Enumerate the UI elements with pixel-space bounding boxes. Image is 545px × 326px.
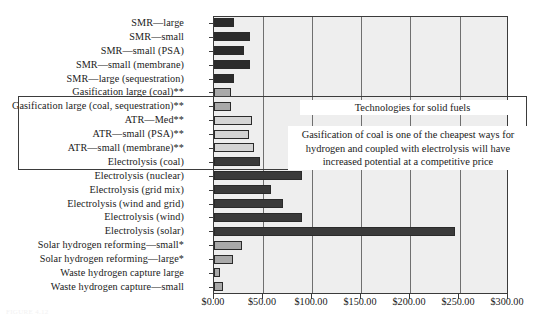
bar-container <box>214 72 234 86</box>
bar[interactable] <box>214 60 250 69</box>
bar[interactable] <box>214 282 223 291</box>
category-label: Electrolysis (coal) <box>0 156 188 168</box>
y-axis-tick <box>209 37 213 38</box>
y-axis-tick <box>209 217 213 218</box>
y-axis-tick <box>209 120 213 121</box>
y-axis-tick <box>209 23 213 24</box>
category-label: Electrolysis (wind and grid) <box>0 198 188 210</box>
bar-container <box>214 183 271 197</box>
bar[interactable] <box>214 157 260 166</box>
bar[interactable] <box>214 185 271 194</box>
x-axis-tick <box>213 294 214 299</box>
category-label: Waste hydrogen capture—small <box>0 281 188 293</box>
bar-container <box>214 16 234 30</box>
figure-container: SMR—largeSMR—smallSMR—small (PSA)SMR—sma… <box>0 0 545 326</box>
bar[interactable] <box>214 241 242 250</box>
category-label: SMR—large <box>0 17 188 29</box>
bar[interactable] <box>214 116 252 125</box>
bar[interactable] <box>214 88 231 97</box>
category-label: Waste hydrogen capture large <box>0 267 188 279</box>
chart-row: Electrolysis (solar) <box>0 224 545 238</box>
bar[interactable] <box>214 268 220 277</box>
chart-row: Electrolysis (nuclear) <box>0 169 545 183</box>
category-label: Electrolysis (nuclear) <box>0 170 188 182</box>
y-axis-tick <box>209 176 213 177</box>
bar[interactable] <box>214 130 249 139</box>
bar-container <box>214 58 250 72</box>
bar[interactable] <box>214 18 234 27</box>
y-axis-tick <box>209 273 213 274</box>
x-axis-tick <box>262 294 263 299</box>
category-label: ATR—small (membrane)** <box>0 142 188 154</box>
y-axis-tick <box>209 204 213 205</box>
bar[interactable] <box>214 171 302 180</box>
bar-container <box>214 266 220 280</box>
category-label: SMR—small <box>0 31 188 43</box>
category-label: SMR—large (sequestration) <box>0 73 188 85</box>
bar-container <box>214 280 223 294</box>
y-axis-tick <box>209 259 213 260</box>
y-axis-tick <box>209 79 213 80</box>
category-label: Electrolysis (solar) <box>0 225 188 237</box>
bar[interactable] <box>214 213 302 222</box>
bar-container <box>214 44 244 58</box>
y-axis-tick <box>209 148 213 149</box>
y-axis-tick <box>209 245 213 246</box>
category-label: SMR—small (PSA) <box>0 45 188 57</box>
y-axis-tick <box>209 231 213 232</box>
bar[interactable] <box>214 74 234 83</box>
bar-container <box>214 85 231 99</box>
bar[interactable] <box>214 227 455 236</box>
category-label: Gasification large (coal, sequestration)… <box>0 100 188 112</box>
y-axis-tick <box>209 190 213 191</box>
category-label: Solar hydrogen reforming—large* <box>0 253 188 265</box>
x-axis-tick <box>409 294 410 299</box>
y-axis-tick <box>209 51 213 52</box>
gasification-note: Gasification of coal is one of the cheap… <box>288 126 528 170</box>
category-label: SMR—small (membrane) <box>0 59 188 71</box>
x-axis-tick <box>507 294 508 299</box>
bar[interactable] <box>214 199 283 208</box>
chart-row: SMR—large <box>0 16 545 30</box>
bar[interactable] <box>214 143 254 152</box>
chart-row: Waste hydrogen capture large <box>0 266 545 280</box>
y-axis-tick <box>209 106 213 107</box>
y-axis-tick <box>209 287 213 288</box>
bar-container <box>214 155 260 169</box>
bar-container <box>214 238 242 252</box>
bar-container <box>214 252 233 266</box>
category-label: ATR—small (PSA)** <box>0 128 188 140</box>
chart-row: Solar hydrogen reforming—small* <box>0 238 545 252</box>
category-label: Electrolysis (grid mix) <box>0 184 188 196</box>
chart-row: Electrolysis (wind) <box>0 210 545 224</box>
chart-row: SMR—small <box>0 30 545 44</box>
bar-container <box>214 99 231 113</box>
x-axis-tick <box>360 294 361 299</box>
solid-fuels-heading: Technologies for solid fuels <box>300 100 525 115</box>
chart-row: Gasification large (coal)** <box>0 85 545 99</box>
bar-container <box>214 224 455 238</box>
y-axis-tick <box>209 134 213 135</box>
y-axis-tick <box>209 65 213 66</box>
x-axis-tick <box>458 294 459 299</box>
figure-caption: FIGURE 4.12 <box>6 308 49 316</box>
chart-row: Solar hydrogen reforming—large* <box>0 252 545 266</box>
category-label: Solar hydrogen reforming—small* <box>0 239 188 251</box>
bar-container <box>214 210 302 224</box>
chart-row: SMR—large (sequestration) <box>0 72 545 86</box>
chart-row: Electrolysis (wind and grid) <box>0 197 545 211</box>
bar[interactable] <box>214 46 244 55</box>
bar[interactable] <box>214 32 250 41</box>
bar-container <box>214 141 254 155</box>
category-label: ATR—Med** <box>0 114 188 126</box>
bar[interactable] <box>214 102 231 111</box>
category-label: Electrolysis (wind) <box>0 211 188 223</box>
x-axis-labels: $0.00$50.00$100.00$150.00$200.00$250.00$… <box>0 296 545 312</box>
bar-container <box>214 113 252 127</box>
x-axis-tick <box>311 294 312 299</box>
chart-row: SMR—small (PSA) <box>0 44 545 58</box>
bar[interactable] <box>214 255 233 264</box>
chart-row: SMR—small (membrane) <box>0 58 545 72</box>
y-axis-tick <box>209 162 213 163</box>
category-label: Gasification large (coal)** <box>0 86 188 98</box>
